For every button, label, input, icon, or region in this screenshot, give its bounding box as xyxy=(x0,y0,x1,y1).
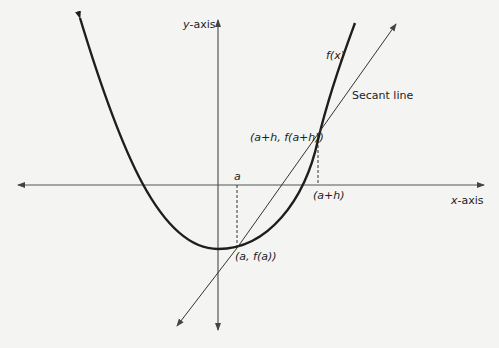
point-a-label: (a, f(a)) xyxy=(235,250,277,263)
x-axis-label-suffix: -axis xyxy=(458,194,484,207)
function-label: f(x) xyxy=(326,49,345,62)
secant-line-diagram xyxy=(0,0,499,348)
tick-a-label: a xyxy=(234,170,241,183)
x-axis-label: x-axis xyxy=(451,194,484,207)
secant-line-label: Secant line xyxy=(352,89,413,102)
point-a-plus-h-label: (a+h, f(a+h)) xyxy=(250,131,324,144)
secant-line-lower xyxy=(177,248,237,326)
y-axis-label: y-axis xyxy=(183,18,216,31)
tick-a-plus-h-label: (a+h) xyxy=(313,189,345,202)
y-axis-label-suffix: -axis xyxy=(190,18,216,31)
